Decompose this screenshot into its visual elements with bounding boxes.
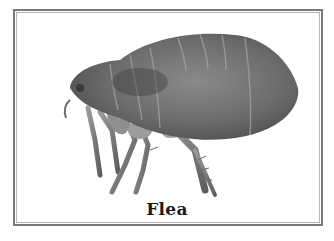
- flea-body: [70, 34, 298, 140]
- card-label: Flea: [0, 199, 334, 219]
